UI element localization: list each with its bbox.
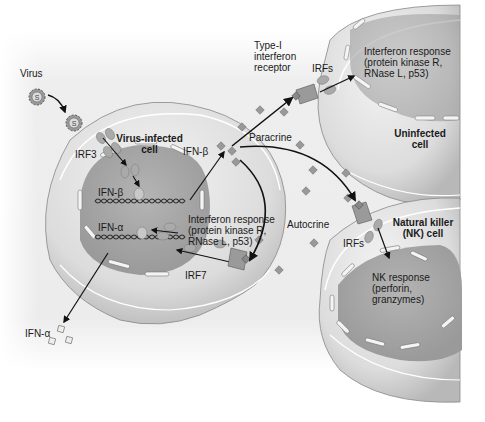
- svg-text:S: S: [72, 120, 77, 127]
- label-nk-cell: Natural killer (NK) cell: [383, 217, 463, 239]
- label-irfs-uninfected: IRFs: [312, 63, 333, 74]
- interferon-diagram: S S: [0, 0, 485, 422]
- label-nk-response: NK response (perforin, granzymes): [372, 272, 430, 305]
- label-autocrine: Autocrine: [287, 219, 329, 230]
- label-virus: Virus: [20, 68, 43, 79]
- label-irfs-nk: IRFs: [343, 238, 364, 249]
- label-ifn-alpha-secreted: IFN-α: [25, 328, 50, 339]
- label-virus-infected-cell: Virus-infected cell: [112, 133, 187, 155]
- virus-icon: S: [29, 89, 45, 105]
- label-type-i-receptor: Type-I interferon receptor: [254, 40, 296, 73]
- label-paracrine: Paracrine: [249, 132, 292, 143]
- svg-text:S: S: [35, 94, 40, 101]
- label-ifn-beta-gene: IFN-β: [98, 187, 123, 198]
- virus-attaching-icon: S: [66, 115, 82, 131]
- label-ifn-beta-secreted: IFN-β: [183, 146, 208, 157]
- label-uninfected-response: Interferon response (protein kinase R, R…: [364, 46, 451, 79]
- label-autocrine-response: Interferon response (protein kinase R, R…: [188, 214, 275, 247]
- label-irf7: IRF7: [185, 270, 207, 281]
- label-ifn-alpha-gene: IFN-α: [98, 222, 123, 233]
- label-irf3: IRF3: [75, 149, 97, 160]
- label-uninfected-cell: Uninfected cell: [385, 128, 455, 150]
